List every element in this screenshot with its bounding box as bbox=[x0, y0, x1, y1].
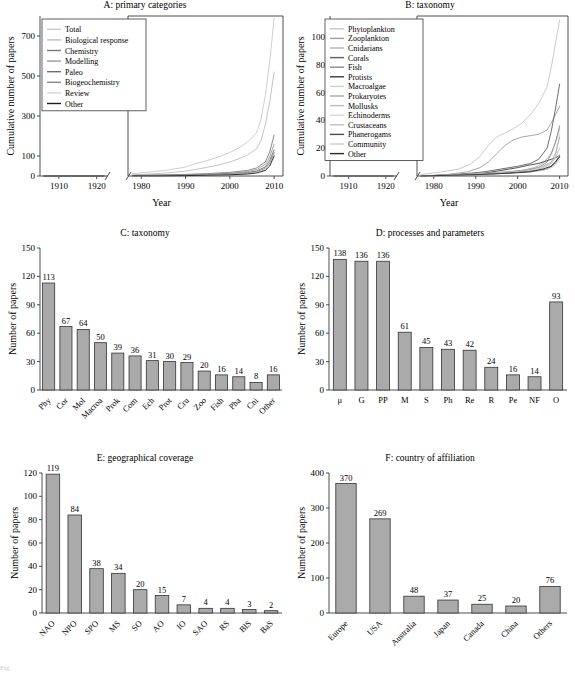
bar bbox=[472, 604, 492, 613]
y-axis-title: Number of papers bbox=[7, 283, 18, 355]
bar-value-label: 24 bbox=[487, 356, 496, 366]
panel-e-title: E: geographical coverage bbox=[0, 453, 290, 463]
svg-text:2010: 2010 bbox=[551, 181, 570, 191]
panel-e-geographical-coverage: E: geographical coverage 020406080100120… bbox=[0, 445, 290, 678]
bar-value-label: 2 bbox=[269, 600, 273, 610]
bar-value-label: 20 bbox=[512, 595, 521, 605]
bar bbox=[404, 596, 424, 613]
category-label: SPO bbox=[82, 618, 100, 636]
bar-value-label: 48 bbox=[410, 585, 419, 595]
svg-text:700: 700 bbox=[22, 31, 36, 41]
bar bbox=[129, 356, 141, 390]
bar-value-label: 43 bbox=[444, 338, 453, 348]
svg-text:100: 100 bbox=[312, 32, 326, 42]
legend-label: Corals bbox=[348, 54, 369, 63]
bar-value-label: 39 bbox=[114, 342, 123, 352]
bar-value-label: 3 bbox=[247, 599, 251, 609]
category-label: RS bbox=[217, 618, 232, 633]
bar bbox=[485, 367, 498, 390]
svg-text:1990: 1990 bbox=[467, 181, 486, 191]
legend-label: Mollusks bbox=[348, 102, 378, 111]
svg-text:400: 400 bbox=[311, 468, 325, 478]
bar-value-label: 15 bbox=[158, 585, 167, 595]
bar-value-label: 136 bbox=[355, 250, 368, 260]
bar bbox=[155, 596, 169, 614]
category-label: Other bbox=[257, 395, 278, 416]
bar bbox=[60, 327, 72, 390]
svg-text:60: 60 bbox=[315, 328, 325, 338]
category-label: G bbox=[358, 395, 364, 405]
bar bbox=[333, 259, 346, 390]
bar bbox=[506, 375, 519, 390]
svg-text:80: 80 bbox=[28, 515, 38, 525]
legend-label: Paleo bbox=[65, 68, 83, 77]
category-label: Ech bbox=[140, 395, 157, 412]
svg-text:60: 60 bbox=[26, 328, 36, 338]
bar bbox=[215, 375, 227, 390]
category-label: Australia bbox=[389, 618, 418, 647]
svg-text:0: 0 bbox=[320, 608, 325, 618]
bar-value-label: 93 bbox=[552, 291, 561, 301]
svg-text:120: 120 bbox=[311, 271, 325, 281]
bar bbox=[199, 608, 213, 613]
svg-text:1980: 1980 bbox=[425, 181, 444, 191]
bar-value-label: 16 bbox=[509, 364, 518, 374]
category-label: MS bbox=[107, 618, 123, 634]
bar-value-label: 64 bbox=[79, 318, 88, 328]
bar-value-label: 25 bbox=[478, 593, 487, 603]
bar bbox=[550, 302, 563, 390]
category-label: O bbox=[553, 395, 559, 405]
bar-value-label: 30 bbox=[165, 351, 174, 361]
bar-value-label: 38 bbox=[92, 558, 101, 568]
panel-a-plot: 0100300500700191019201980199020002010Yea… bbox=[0, 0, 290, 220]
category-label: Ph bbox=[444, 395, 454, 405]
category-label: Zoo bbox=[191, 395, 208, 412]
panel-c-plot: 0306090120150113Phy67Cor64Mol50Macroa39P… bbox=[0, 220, 290, 450]
svg-text:150: 150 bbox=[22, 243, 36, 253]
series-line bbox=[132, 156, 274, 176]
panel-c-title: C: taxonomy bbox=[0, 228, 290, 238]
svg-text:Cumulative number of papers: Cumulative number of papers bbox=[295, 36, 306, 155]
svg-text:1910: 1910 bbox=[50, 181, 69, 191]
legend-label: Phytoplankton bbox=[348, 25, 395, 34]
series-line bbox=[132, 18, 274, 174]
bar bbox=[264, 611, 278, 613]
bar-value-label: 45 bbox=[422, 336, 431, 346]
series-line bbox=[132, 135, 274, 175]
svg-text:200: 200 bbox=[311, 538, 325, 548]
category-label: S bbox=[424, 395, 429, 405]
svg-text:Year: Year bbox=[440, 197, 459, 208]
svg-text:120: 120 bbox=[22, 271, 36, 281]
bar-value-label: 138 bbox=[333, 248, 346, 258]
svg-text:2000: 2000 bbox=[221, 181, 240, 191]
svg-text:40: 40 bbox=[28, 561, 38, 571]
panel-f-country-of-affiliation: F: country of affiliation 01002003004003… bbox=[285, 445, 575, 678]
category-label: μ bbox=[338, 395, 343, 405]
svg-text:0: 0 bbox=[320, 385, 325, 395]
category-label: PP bbox=[378, 395, 388, 405]
svg-text:60: 60 bbox=[316, 88, 326, 98]
legend-label: Community bbox=[348, 140, 386, 149]
category-label: Canada bbox=[461, 618, 486, 643]
legend-label: Prokaryotes bbox=[348, 92, 386, 101]
legend-label: Other bbox=[348, 150, 367, 159]
panel-a-primary-categories: A: primary categories 010030050070019101… bbox=[0, 0, 290, 220]
svg-text:100: 100 bbox=[22, 151, 36, 161]
legend-label: Fish bbox=[348, 63, 362, 72]
bar bbox=[221, 608, 235, 613]
category-label: USA bbox=[365, 618, 385, 638]
category-label: Cru bbox=[175, 395, 192, 412]
bar bbox=[250, 382, 262, 390]
category-label: Others bbox=[531, 618, 554, 641]
bar-value-label: 16 bbox=[217, 364, 226, 374]
bar bbox=[94, 343, 106, 390]
bar-value-label: 136 bbox=[377, 250, 390, 260]
category-label: M bbox=[401, 395, 409, 405]
figure-panel-grid: A: primary categories 010030050070019101… bbox=[0, 0, 575, 678]
bar bbox=[506, 606, 526, 613]
bar bbox=[164, 362, 176, 390]
series-line bbox=[421, 20, 559, 174]
bar bbox=[133, 590, 147, 613]
svg-text:150: 150 bbox=[311, 243, 325, 253]
category-label: Cor bbox=[54, 395, 70, 411]
